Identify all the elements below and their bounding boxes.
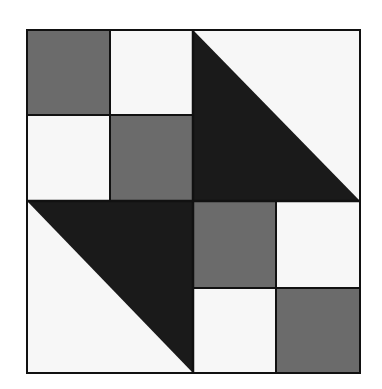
- patch-light: [276, 201, 360, 288]
- patch-medium: [276, 288, 360, 373]
- quilt-block-figure: [0, 0, 382, 389]
- triangle-block-bottom-left: [27, 201, 193, 373]
- patch-medium: [110, 115, 193, 201]
- patch-medium: [27, 30, 110, 115]
- patch-light: [193, 288, 276, 373]
- triangle-block-top-right: [193, 30, 360, 201]
- patch-light: [110, 30, 193, 115]
- patch-medium: [193, 201, 276, 288]
- patch-light: [27, 115, 110, 201]
